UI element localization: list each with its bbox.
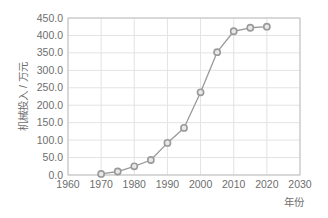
data-point-marker	[247, 25, 253, 31]
data-point-marker	[98, 171, 104, 177]
chart-container: 0.050.0100.0150.0200.0250.0300.0350.0400…	[0, 0, 328, 218]
data-point-marker	[197, 89, 203, 95]
x-axis-tick-label: 1960	[56, 178, 80, 190]
data-point-marker	[214, 49, 220, 55]
y-axis-tick-label: 100.0	[37, 134, 63, 146]
y-axis-tick-label: 150.0	[37, 116, 63, 128]
y-axis-tick-label: 450.0	[37, 12, 63, 24]
y-axis-tick-label: 300.0	[37, 64, 63, 76]
y-axis-tick-label: 400.0	[37, 29, 63, 41]
x-axis-tick-label: 2020	[255, 178, 279, 190]
x-axis-tick-label: 1990	[156, 178, 180, 190]
y-axis-tick-label: 350.0	[37, 46, 63, 58]
data-point-marker	[264, 24, 270, 30]
y-axis-tick-label: 200.0	[37, 99, 63, 111]
y-axis-tick-label: 50.0	[43, 151, 64, 163]
line-chart: 0.050.0100.0150.0200.0250.0300.0350.0400…	[0, 0, 328, 218]
x-axis-tick-label: 1980	[123, 178, 147, 190]
data-point-marker	[148, 157, 154, 163]
data-point-marker	[231, 28, 237, 34]
x-axis-title: 年份	[284, 196, 305, 208]
y-axis-tick-label: 250.0	[37, 81, 63, 93]
y-axis-title: 机械投入 / 万元	[17, 61, 29, 131]
data-point-marker	[164, 140, 170, 146]
data-point-marker	[115, 168, 121, 174]
data-point-marker	[181, 125, 187, 131]
data-point-marker	[131, 163, 137, 169]
x-axis-tick-label: 1970	[89, 178, 113, 190]
x-axis-tick-label: 2030	[288, 178, 312, 190]
x-axis-tick-label: 2010	[222, 178, 246, 190]
x-axis-tick-label: 2000	[189, 178, 213, 190]
